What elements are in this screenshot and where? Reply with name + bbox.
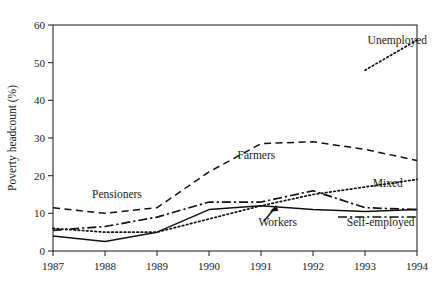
x-tick-label: 1993: [354, 260, 377, 272]
y-tick-label: 40: [34, 94, 46, 106]
series-label-workers: Workers: [258, 216, 297, 228]
x-tick-label: 1991: [250, 260, 272, 272]
x-tick-label: 1989: [146, 260, 169, 272]
series-label-self-employed: Self-employed: [347, 216, 415, 229]
series-label-mixed: Mixed: [373, 177, 403, 189]
series-label-pensioners: Pensioners: [92, 188, 142, 200]
y-axis-ticks: 0102030405060: [34, 19, 53, 257]
chart-canvas: 0102030405060 19871988198919901991199219…: [0, 0, 435, 284]
y-axis-title: Poverty headcount (%): [6, 85, 19, 191]
y-tick-label: 50: [34, 57, 46, 69]
x-axis-ticks: 19871988198919901991199219931994: [42, 251, 429, 272]
x-tick-label: 1990: [198, 260, 221, 272]
y-tick-label: 60: [34, 19, 46, 31]
y-tick-label: 20: [34, 170, 46, 182]
series-label-farmers: Farmers: [238, 149, 276, 161]
poverty-headcount-line-chart: 0102030405060 19871988198919901991199219…: [0, 0, 435, 284]
x-tick-label: 1987: [42, 260, 65, 272]
y-tick-label: 30: [34, 132, 46, 144]
x-tick-label: 1992: [302, 260, 324, 272]
x-tick-label: 1988: [94, 260, 117, 272]
x-tick-label: 1994: [406, 260, 429, 272]
y-tick-label: 0: [40, 245, 46, 257]
series-lines: [53, 40, 417, 242]
y-tick-label: 10: [34, 207, 46, 219]
series-label-unemployed: Unemployed: [368, 34, 428, 47]
